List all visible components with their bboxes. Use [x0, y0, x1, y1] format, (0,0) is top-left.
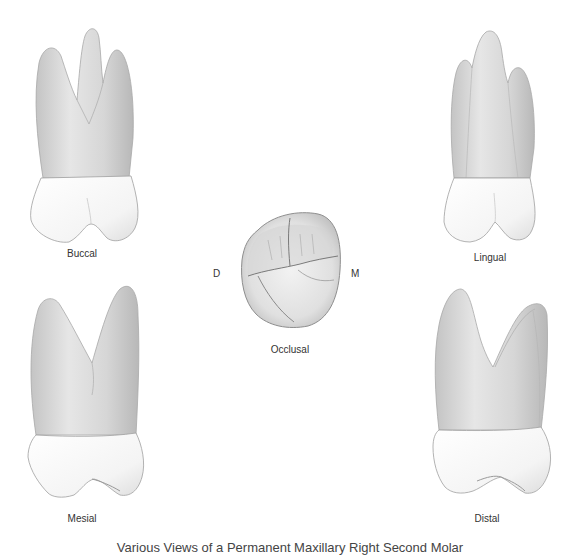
label-buccal: Buccal [62, 248, 102, 259]
figure-caption: Various Views of a Permanent Maxillary R… [0, 540, 580, 555]
direction-mesial: M [351, 268, 359, 279]
lingual-tooth-illustration [440, 28, 550, 248]
label-distal: Distal [467, 513, 507, 524]
mesial-tooth-illustration [20, 285, 150, 505]
tooth-view-occlusal [238, 210, 343, 330]
tooth-view-mesial [20, 285, 150, 505]
label-lingual: Lingual [470, 252, 510, 263]
direction-distal: D [213, 268, 220, 279]
tooth-view-lingual [440, 28, 550, 248]
distal-tooth-illustration [425, 285, 555, 505]
tooth-view-distal [425, 285, 555, 505]
tooth-view-buccal [25, 28, 145, 248]
label-mesial: Mesial [62, 513, 102, 524]
label-occlusal: Occlusal [265, 344, 315, 355]
occlusal-tooth-illustration [238, 210, 343, 330]
buccal-tooth-illustration [25, 28, 145, 248]
